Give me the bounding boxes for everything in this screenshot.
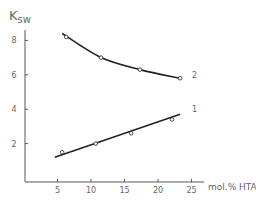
data-point: [170, 118, 174, 122]
series-label: 1: [192, 105, 197, 114]
y-ticks: 2468: [11, 36, 28, 148]
y-tick-label: 8: [11, 36, 16, 45]
series-line: [55, 114, 180, 157]
series-1: 1: [55, 105, 197, 157]
data-point: [94, 142, 98, 146]
x-ticks: 510152025: [55, 179, 197, 195]
series-line: [62, 34, 180, 79]
series-group: 12: [55, 34, 197, 158]
y-axis-label: Ksw: [9, 8, 31, 25]
data-point: [178, 76, 182, 80]
x-axis-label: mol.% HTA: [208, 182, 256, 192]
data-point: [60, 150, 64, 154]
x-tick-label: 10: [86, 186, 96, 195]
x-tick-label: 25: [186, 186, 196, 195]
y-tick-label: 4: [11, 105, 16, 114]
series-2: 2: [62, 34, 197, 81]
data-point: [138, 68, 142, 72]
data-point: [64, 35, 68, 39]
y-tick-label: 6: [11, 71, 16, 80]
y-tick-label: 2: [11, 140, 16, 149]
x-tick-label: 20: [153, 186, 163, 195]
x-tick-label: 5: [55, 186, 60, 195]
data-point: [129, 131, 133, 135]
x-tick-label: 15: [119, 186, 129, 195]
series-label: 2: [192, 71, 197, 80]
data-point: [99, 56, 103, 60]
chart: 2468 510152025 Ksw mol.% HTA 12: [0, 0, 256, 207]
